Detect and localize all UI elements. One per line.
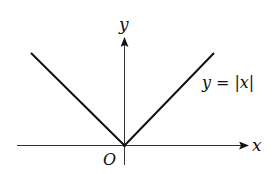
- abs-value-curve: [31, 53, 214, 146]
- x-axis-label: x: [252, 135, 262, 155]
- curve-label-rhs: |x|: [234, 73, 254, 92]
- curve-label-lhs: y: [201, 73, 212, 92]
- origin-point: [123, 144, 126, 147]
- absolute-value-graph: y x O y = |x|: [0, 0, 274, 174]
- curve-label: y = |x|: [201, 73, 254, 92]
- origin-label: O: [103, 150, 116, 169]
- y-axis-label: y: [118, 14, 129, 34]
- curve-label-eq: =: [216, 73, 229, 92]
- graph-svg: y x O y = |x|: [0, 0, 274, 174]
